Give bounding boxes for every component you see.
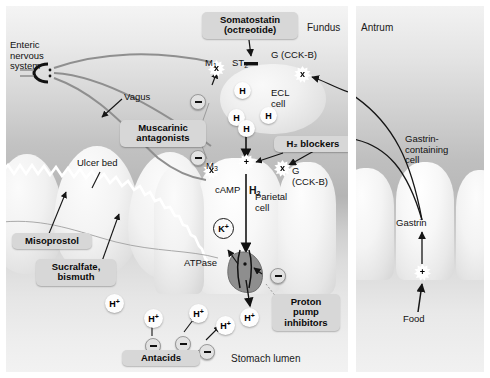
ecl-cell-label: ECL cell bbox=[271, 88, 289, 109]
muscarinic-inhibition-token-lower bbox=[190, 150, 206, 166]
proton-label: H+ bbox=[220, 321, 231, 331]
callout-antacids[interactable]: Antacids bbox=[122, 350, 200, 366]
g-cckb-parietal-label: G (CCK-B) bbox=[292, 166, 328, 187]
proton-bubble: H+ bbox=[105, 294, 124, 313]
ulcer-bed-label: Ulcer bed bbox=[77, 158, 118, 169]
diagram-root: x x H H H H x + x bbox=[0, 0, 490, 378]
antrum-panel: + Antrum Gastrin- containing cell Gastri… bbox=[356, 6, 484, 372]
antral-epithelial-cell bbox=[456, 170, 484, 280]
enteric-nervous-system-label: Enteric nervous system bbox=[10, 40, 44, 72]
muscarinic-inhibition-token-upper bbox=[190, 94, 206, 110]
fundus-panel: x x H H H H x + x bbox=[6, 6, 348, 372]
callout-misoprostol[interactable]: Misoprostol bbox=[12, 233, 92, 249]
callout-muscarinic-antagonists[interactable]: Muscarinic antagonists bbox=[120, 120, 206, 147]
camp-label: cAMP bbox=[215, 185, 240, 196]
gastrin-containing-cell-label: Gastrin- containing cell bbox=[405, 134, 448, 166]
histamine-bubble-released: H bbox=[238, 120, 255, 137]
potassium-label: K+ bbox=[218, 224, 229, 234]
st2-receptor-label: ST2 bbox=[232, 47, 248, 68]
receptor-x-glyph: x bbox=[300, 70, 305, 79]
plus-glyph: + bbox=[244, 158, 249, 167]
gastrin-label: Gastrin bbox=[396, 218, 427, 229]
h2-receptor-label: H2 bbox=[249, 173, 261, 197]
antacid-token bbox=[199, 344, 215, 360]
proton-bubble: H+ bbox=[240, 308, 259, 327]
proton-bubble: H+ bbox=[144, 309, 163, 328]
histamine-label: H bbox=[239, 86, 246, 96]
food-label: Food bbox=[403, 314, 425, 325]
histamine-label: H bbox=[233, 113, 240, 123]
g-cckb-ecl-label: G (CCK-B) bbox=[271, 50, 317, 61]
m3-receptor-label: M3 bbox=[206, 150, 218, 171]
m1-receptor-label: M1 bbox=[205, 47, 217, 68]
proton-label: H+ bbox=[193, 309, 204, 319]
stomach-lumen-label: Stomach lumen bbox=[231, 353, 300, 364]
histamine-label: H bbox=[243, 124, 250, 134]
proton-label: H+ bbox=[109, 299, 120, 309]
proton-label: H+ bbox=[244, 313, 255, 323]
ppi-inhibition-token bbox=[270, 268, 286, 284]
potassium-ion-bubble: K+ bbox=[213, 218, 234, 239]
receptor-x-glyph: x bbox=[280, 164, 285, 173]
antrum-region-label: Antrum bbox=[361, 22, 393, 33]
callout-somatostatin[interactable]: Somatostatin (octreotide) bbox=[202, 12, 298, 39]
histamine-label: H bbox=[265, 111, 272, 121]
atpase-label: ATPase bbox=[184, 258, 217, 269]
antral-epithelial-cell bbox=[356, 168, 394, 280]
fundus-region-label: Fundus bbox=[307, 22, 340, 33]
plus-glyph: + bbox=[420, 268, 425, 277]
proton-bubble: H+ bbox=[189, 304, 208, 323]
vagus-label: Vagus bbox=[124, 92, 150, 103]
proton-label: H+ bbox=[148, 314, 159, 324]
callout-h2-blockers[interactable]: H₂ blockers bbox=[274, 136, 348, 152]
proton-bubble: H+ bbox=[216, 316, 235, 335]
histamine-bubble: H bbox=[260, 107, 277, 124]
callout-sucralfate-bismuth[interactable]: Sucralfate, bismuth bbox=[36, 259, 116, 286]
callout-proton-pump-inhibitors[interactable]: Proton pump inhibitors bbox=[272, 294, 340, 331]
histamine-bubble: H bbox=[234, 82, 251, 99]
epithelial-cell bbox=[154, 166, 204, 294]
